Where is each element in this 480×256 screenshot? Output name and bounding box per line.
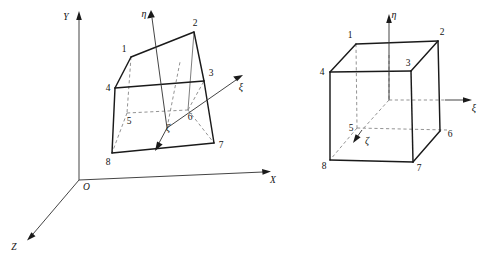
right-node-3: 3 [406, 58, 411, 68]
left-node-2: 2 [193, 18, 198, 28]
edge-1-5-hidden [127, 57, 131, 113]
right-edge-1-2 [356, 41, 438, 44]
left-zeta-arrowhead [155, 142, 163, 152]
right-cube-visible-edges [330, 41, 440, 162]
label-right-eta: η [392, 9, 397, 20]
left-node-1: 1 [122, 44, 127, 54]
figure-canvas: Y X Z O η ξ ζ 1 2 3 4 5 6 7 8 η ξ ζ 1 2 … [0, 0, 480, 256]
left-node-4: 4 [106, 83, 111, 93]
x-axis-arrowhead [262, 169, 271, 175]
left-node-3: 3 [209, 68, 214, 78]
y-axis-arrowhead [76, 11, 82, 20]
edge-3-6-hidden [188, 81, 204, 110]
label-left-zeta: ζ [166, 122, 171, 134]
right-edge-4-3 [330, 71, 411, 72]
left-eta-arrowhead [147, 10, 155, 19]
x-axis-line [79, 172, 263, 180]
edge-5-6-hidden [127, 110, 188, 113]
right-node-8: 8 [322, 161, 327, 171]
label-left-eta: η [142, 8, 147, 19]
left-node-8: 8 [106, 157, 111, 167]
left-node-5: 5 [127, 116, 132, 126]
right-edge-2-3 [411, 41, 438, 71]
label-z-axis: Z [11, 242, 17, 252]
edge-1-4 [115, 57, 131, 88]
left-natural-axes [147, 10, 243, 151]
right-node-1: 1 [348, 30, 353, 40]
right-node-5: 5 [349, 123, 354, 133]
right-zeta-arrowhead [353, 134, 361, 143]
right-edge-5-6-hidden [357, 128, 447, 130]
edge-1-2 [131, 32, 194, 57]
right-edge-7-6 [413, 131, 440, 162]
right-node-4: 4 [320, 67, 325, 77]
right-edge-8-7 [330, 160, 413, 162]
right-node-7: 7 [417, 163, 422, 173]
left-eta-axis-line [152, 18, 167, 128]
left-panel-labels: Y X Z O η ξ ζ 1 2 3 4 5 6 7 8 [11, 8, 277, 252]
label-origin: O [83, 182, 90, 192]
left-global-axes [27, 11, 271, 241]
right-edge-3-7 [411, 71, 413, 162]
label-right-xi: ξ [472, 102, 477, 114]
edge-4-8 [112, 88, 115, 153]
edge-2-3 [194, 32, 204, 81]
right-node-6: 6 [448, 129, 453, 139]
left-node-7: 7 [219, 140, 224, 150]
diagram-svg: Y X Z O η ξ ζ 1 2 3 4 5 6 7 8 η ξ ζ 1 2 … [0, 0, 480, 256]
right-panel-labels: η ξ ζ 1 2 3 4 5 6 7 8 [320, 9, 477, 173]
edge-2-6-hidden [188, 32, 194, 110]
right-edge-1-4 [330, 44, 356, 72]
edge-4-3 [115, 81, 204, 88]
label-right-zeta: ζ [365, 135, 370, 147]
edge-8-7 [112, 143, 214, 153]
z-axis-arrowhead [27, 232, 36, 240]
z-axis-line [33, 180, 79, 234]
right-xi-arrowhead [463, 97, 472, 103]
left-eta-axis-interior-dashed [167, 62, 180, 128]
edge-3-7 [204, 81, 214, 143]
label-left-xi: ξ [239, 81, 244, 93]
right-edge-1-5-hidden [356, 44, 357, 128]
left-node-6: 6 [188, 112, 193, 122]
right-edge-2-6 [438, 41, 440, 131]
right-node-2: 2 [440, 27, 445, 37]
right-centre-diagonal-dashed [362, 100, 389, 130]
left-xi-axis-line [167, 80, 236, 128]
label-x-axis: X [269, 175, 277, 185]
label-y-axis: Y [63, 12, 70, 22]
